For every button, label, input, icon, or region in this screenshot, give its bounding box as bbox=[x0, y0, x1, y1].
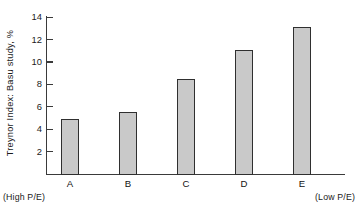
bar-d bbox=[235, 50, 253, 175]
y-axis-tick-label-text: 4 bbox=[20, 124, 42, 133]
y-axis-tick-label: 10 bbox=[20, 57, 42, 67]
category-label-e: E bbox=[287, 178, 317, 189]
plot-area: 1412108642 ABCDE bbox=[0, 0, 359, 206]
bar-a bbox=[61, 119, 79, 175]
y-axis-tick-mark bbox=[47, 39, 53, 40]
y-axis-tick-mark bbox=[47, 106, 53, 107]
y-axis-tick-label-text: 10 bbox=[20, 57, 42, 66]
bar-e bbox=[293, 27, 311, 175]
y-axis-tick-mark bbox=[47, 151, 53, 152]
category-label-a: A bbox=[55, 178, 85, 189]
bar-c bbox=[177, 79, 195, 175]
annotation-low-pe: (Low P/E) bbox=[315, 192, 355, 202]
y-axis-tick-label: 6 bbox=[20, 102, 42, 112]
category-label-d: D bbox=[229, 178, 259, 189]
y-axis-tick-label: 4 bbox=[20, 124, 42, 134]
bar-b bbox=[119, 112, 137, 175]
y-axis-tick-label: 14 bbox=[20, 12, 42, 22]
category-label-b: B bbox=[113, 178, 143, 189]
y-axis-tick-mark bbox=[47, 17, 53, 18]
category-label-c: C bbox=[171, 178, 201, 189]
y-axis-tick-label-text: 14 bbox=[20, 12, 42, 21]
y-axis-tick-mark bbox=[47, 84, 53, 85]
y-axis-tick-label-text: 2 bbox=[20, 147, 42, 156]
annotation-high-pe: (High P/E) bbox=[3, 192, 45, 202]
y-axis-tick-label-text: 12 bbox=[20, 35, 42, 44]
y-axis-tick-label: 2 bbox=[20, 147, 42, 157]
y-axis-tick-label: 12 bbox=[20, 35, 42, 45]
y-axis-tick-label-text: 8 bbox=[20, 79, 42, 88]
y-axis-tick-mark bbox=[47, 61, 53, 62]
y-axis-tick-label-text: 6 bbox=[20, 102, 42, 111]
y-axis-tick-label: 8 bbox=[20, 79, 42, 89]
treynor-index-bar-chart: Treynor Index: Basu study, % 1412108642 … bbox=[0, 0, 359, 206]
y-axis-tick-mark bbox=[47, 129, 53, 130]
